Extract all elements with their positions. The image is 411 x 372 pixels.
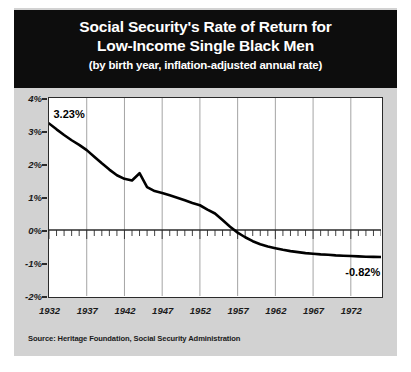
start-value-label: 3.23%: [54, 108, 85, 120]
y-axis-tick: [42, 197, 47, 199]
x-axis-label: 1957: [218, 305, 258, 316]
y-axis-label: 1%: [16, 192, 42, 203]
x-axis-label: 1947: [143, 305, 183, 316]
y-axis-label: 0%: [16, 225, 42, 236]
y-axis-label: 2%: [16, 159, 42, 170]
y-axis-label: 4%: [16, 93, 42, 104]
data-series-line: [49, 123, 381, 257]
plot-area: [48, 97, 383, 298]
chart-title-line-1: Social Security's Rate of Return for: [14, 17, 397, 36]
y-axis-tick: [42, 296, 47, 298]
x-axis-label: 1932: [30, 305, 70, 316]
x-axis-year-ticks: [49, 230, 381, 239]
chart-svg: [49, 98, 381, 296]
title-banner: Social Security's Rate of Return for Low…: [14, 10, 397, 88]
y-axis-label: -1%: [16, 258, 42, 269]
y-axis-label: -2%: [16, 291, 42, 302]
x-axis-label: 1967: [294, 305, 334, 316]
chart-subtitle: (by birth year, inflation-adjusted annua…: [14, 57, 397, 74]
y-axis-tick: [42, 98, 47, 100]
chart-title-line-2: Low-Income Single Black Men: [14, 36, 397, 55]
end-value-label: -0.82%: [345, 266, 380, 278]
y-axis-tick: [42, 230, 47, 232]
chart-card: Social Security's Rate of Return for Low…: [14, 8, 397, 356]
x-axis-label: 1962: [256, 305, 296, 316]
vertical-gridlines: [87, 98, 351, 296]
x-axis-label: 1972: [331, 305, 371, 316]
y-axis-tick: [42, 164, 47, 166]
y-axis-tick: [42, 131, 47, 133]
source-note: Source: Heritage Foundation, Social Secu…: [28, 334, 240, 343]
x-axis-label: 1937: [67, 305, 107, 316]
y-axis-label: 3%: [16, 126, 42, 137]
x-axis-label: 1942: [105, 305, 145, 316]
y-axis-tick: [42, 263, 47, 265]
x-axis-label: 1952: [180, 305, 220, 316]
